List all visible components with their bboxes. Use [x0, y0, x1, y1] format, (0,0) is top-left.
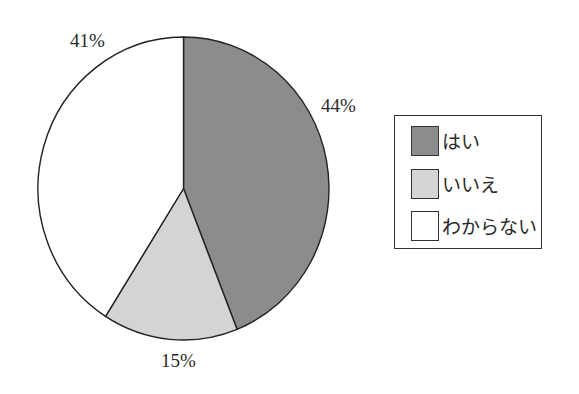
legend-label: いいえ	[442, 170, 499, 197]
label-hai-percent: 44%	[321, 96, 356, 115]
legend-swatch-hai	[411, 126, 439, 156]
legend: はい いいえ わからない	[394, 115, 542, 249]
legend-swatch-wakaranai	[411, 211, 439, 241]
legend-item-wakaranai: わからない	[411, 210, 537, 241]
legend-label: はい	[442, 127, 480, 154]
legend-item-hai: はい	[411, 125, 480, 156]
label-wakaranai-percent: 41%	[70, 31, 105, 50]
label-iie-percent: 15%	[161, 351, 196, 370]
pie-slices	[38, 37, 329, 340]
legend-label: わからない	[442, 212, 537, 239]
legend-item-iie: いいえ	[411, 168, 499, 199]
legend-swatch-iie	[411, 169, 439, 199]
